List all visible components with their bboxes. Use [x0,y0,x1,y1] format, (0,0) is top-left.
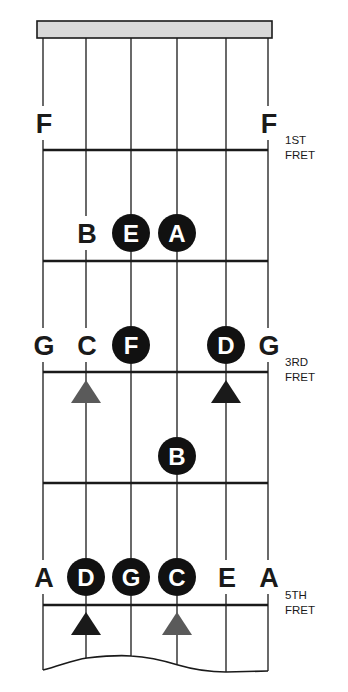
nut [37,21,272,38]
note-d: D [207,326,245,364]
triangle-marker-dark [71,612,101,635]
fretboard-cut-edge [43,656,268,672]
fret-label-word: FRET [285,149,315,161]
triangle-marker-gray [71,380,101,403]
note-b: B [77,219,97,249]
position-markers [71,380,241,635]
note-c: C [158,558,196,596]
note-a: A [259,563,279,593]
fret-label-number: 3RD [285,356,308,368]
note-g: G [33,331,54,361]
note-label: B [168,443,185,470]
note-label: A [168,220,185,247]
note-label: C [168,564,185,591]
note-label: A [34,563,54,593]
note-f: F [261,109,278,139]
note-label: G [122,564,141,591]
fret-label-word: FRET [285,604,315,616]
fret-label-word: FRET [285,371,315,383]
note-c: C [77,331,97,361]
fretboard-diagram: 1STFRET3RDFRET5THFRET FFBEAGCFDGBADGCEA [0,0,348,692]
note-label: G [258,331,279,361]
triangle-marker-gray [162,612,192,635]
note-e: E [112,214,150,252]
note-label: G [33,331,54,361]
fretboard-svg: 1STFRET3RDFRET5THFRET FFBEAGCFDGBADGCEA [0,0,348,692]
triangle-marker-dark [211,380,241,403]
note-a: A [158,214,196,252]
note-e: E [218,563,236,593]
note-label: E [218,563,236,593]
note-label: F [261,109,278,139]
note-d: D [67,558,105,596]
note-label: E [123,220,139,247]
note-b: B [158,437,196,475]
fret-label-number: 5TH [285,589,307,601]
note-label: F [124,332,139,359]
note-label: B [77,219,97,249]
note-g: G [112,558,150,596]
fret-labels: 1STFRET3RDFRET5THFRET [285,134,315,616]
note-label: F [36,109,53,139]
notes: FFBEAGCFDGBADGCEA [33,109,279,597]
note-g: G [258,331,279,361]
note-label: D [217,332,234,359]
note-a: A [34,563,54,593]
note-label: D [77,564,94,591]
note-label: A [259,563,279,593]
fret-label-number: 1ST [285,134,306,146]
note-label: C [77,331,97,361]
note-f: F [36,109,53,139]
note-f: F [112,326,150,364]
